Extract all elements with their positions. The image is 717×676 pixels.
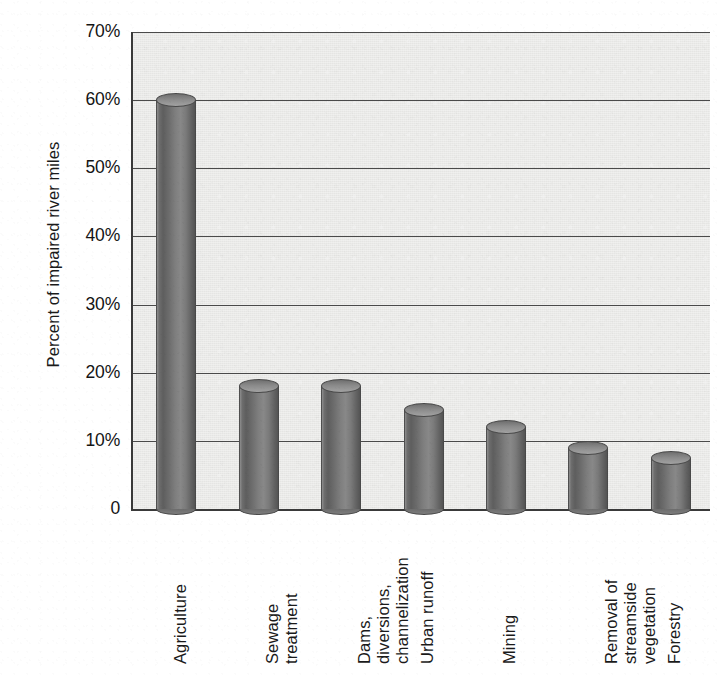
plot-area xyxy=(131,32,710,511)
x-axis-label: Urban runoff xyxy=(418,514,437,664)
x-axis-label: Agriculture xyxy=(171,514,190,664)
x-axis-label-line: Removal of xyxy=(602,514,621,664)
x-axis-label: Dams,diversions,channelization xyxy=(355,514,411,664)
x-axis-label: Sewagetreatment xyxy=(263,514,301,664)
y-axis-tick-labels: 70%60%50%40%30%20%10%0 xyxy=(44,0,120,676)
x-axis-label-line: Forestry xyxy=(665,514,684,664)
bar-slot xyxy=(156,32,196,509)
bar-removal-of-streamside-vegetation[interactable] xyxy=(568,448,608,509)
bar-agriculture[interactable] xyxy=(156,100,196,509)
y-tick-label: 50% xyxy=(48,160,120,178)
chart-figure: Percent of impaired river miles 70%60%50… xyxy=(0,0,717,676)
y-tick-label: 20% xyxy=(48,364,120,382)
x-axis-label-line: streamside xyxy=(621,514,640,664)
bar-slot xyxy=(568,32,608,509)
bar-mining[interactable] xyxy=(486,427,526,509)
x-axis-label: Forestry xyxy=(665,514,684,664)
y-tick-label: 70% xyxy=(48,23,120,41)
x-axis-label-line: Agriculture xyxy=(171,514,190,664)
y-tick-label: 30% xyxy=(48,296,120,314)
x-axis-label-line: channelization xyxy=(392,514,411,664)
bar-slot xyxy=(239,32,279,509)
bar-slot xyxy=(404,32,444,509)
x-axis-label-line: vegetation xyxy=(639,514,658,664)
bar-sewage-treatment[interactable] xyxy=(239,386,279,509)
bar-slot xyxy=(486,32,526,509)
bar-forestry[interactable] xyxy=(651,458,691,509)
x-axis-category-labels: AgricultureSewagetreatmentDams,diversion… xyxy=(131,512,708,672)
x-axis-label-line: treatment xyxy=(281,514,300,664)
y-tick-label: 0 xyxy=(48,500,120,518)
x-axis-label-line: Mining xyxy=(500,514,519,664)
bar-urban-runoff[interactable] xyxy=(404,410,444,509)
bar-series xyxy=(133,32,710,509)
y-tick-label: 10% xyxy=(48,432,120,450)
bar-slot xyxy=(321,32,361,509)
x-axis-label-line: Urban runoff xyxy=(418,514,437,664)
x-axis-label-line: Sewage xyxy=(263,514,282,664)
y-tick-label: 40% xyxy=(48,228,120,246)
bar-slot xyxy=(651,32,691,509)
x-axis-label: Removal ofstreamsidevegetation xyxy=(602,514,658,664)
y-tick-label: 60% xyxy=(48,91,120,109)
x-axis-label-line: Dams, xyxy=(355,514,374,664)
x-axis-label: Mining xyxy=(500,514,519,664)
x-axis-label-line: diversions, xyxy=(373,514,392,664)
bar-dams-diversions-channelization[interactable] xyxy=(321,386,361,509)
